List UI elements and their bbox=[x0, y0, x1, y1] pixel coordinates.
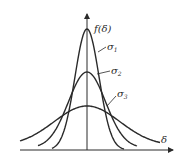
plot-canvas: f(δ) δ σ1 σ2 σ3 bbox=[0, 0, 184, 164]
normal-distribution-figure: f(δ) δ σ1 σ2 σ3 bbox=[0, 0, 184, 164]
label-sigma-3: σ3 bbox=[117, 88, 128, 100]
leader-sigma-1 bbox=[98, 47, 106, 52]
label-sigma-2: σ2 bbox=[111, 65, 122, 77]
leader-sigma-3 bbox=[107, 96, 116, 106]
curve-sigma-3 bbox=[20, 106, 160, 143]
y-axis-label: f(δ) bbox=[93, 23, 112, 34]
x-axis-label: δ bbox=[161, 134, 167, 145]
label-sigma-1: σ1 bbox=[107, 41, 118, 53]
